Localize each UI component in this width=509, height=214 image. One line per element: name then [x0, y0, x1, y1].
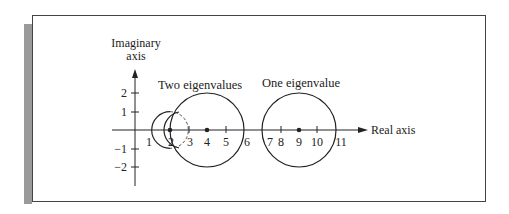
center-point-4: [205, 128, 210, 133]
y-tick-label: −2: [114, 160, 127, 174]
x-tick-label: 5: [223, 135, 229, 149]
x-tick-label: 2: [168, 135, 174, 149]
y-tick-label: 1: [121, 105, 127, 119]
imaginary-axis-arrow-icon: [132, 69, 138, 78]
x-tick-label: 6: [244, 135, 250, 149]
center-point-9: [297, 128, 302, 133]
x-tick-label: 11: [335, 135, 347, 149]
x-tick-label: 1: [146, 135, 152, 149]
real-axis-arrow-icon: [358, 127, 368, 133]
real-axis-label: Real axis: [371, 123, 416, 137]
imaginary-axis-label-line2: axis: [126, 49, 146, 63]
one-eigenvalue-annotation: One eigenvalue: [262, 76, 341, 90]
y-tick-label: −1: [114, 142, 127, 156]
imaginary-axis-label-line1: Imaginary: [111, 36, 160, 50]
two-eigenvalues-annotation: Two eigenvalues: [158, 78, 242, 92]
x-tick-label: 7: [267, 135, 273, 149]
x-tick-label: 9: [296, 135, 302, 149]
x-tick-label: 3: [187, 135, 193, 149]
x-tick-label: 8: [278, 135, 284, 149]
y-tick-label: 2: [121, 86, 127, 100]
center-point-2: [168, 128, 173, 133]
gershgorin-diagram: Imaginary axis Real axis 2 1 −1 −2 1 2 3…: [0, 0, 509, 214]
x-tick-label: 4: [204, 135, 210, 149]
x-tick-label: 10: [311, 135, 323, 149]
